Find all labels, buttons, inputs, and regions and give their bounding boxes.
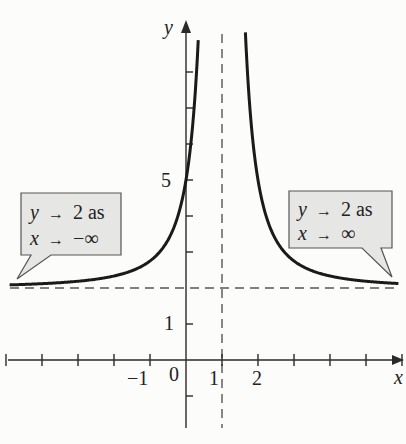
svg-text:y → 2 as: y → 2 as <box>28 201 105 224</box>
y-axis <box>181 20 193 428</box>
callout-right-value: 2 as <box>341 198 373 220</box>
svg-text:x → −∞: x → −∞ <box>29 227 98 249</box>
x-axis <box>6 354 404 366</box>
svg-text:x → ∞: x → ∞ <box>297 222 355 244</box>
callout-left: y → 2 as x → −∞ <box>17 193 121 279</box>
callout-right-y: y <box>296 198 307 221</box>
y-tick-label-1: 1 <box>164 312 174 334</box>
callout-left-limit: −∞ <box>73 227 99 249</box>
x-tick-label-2: 2 <box>252 367 262 389</box>
arrow-right-icon: → <box>48 205 64 222</box>
callout-right: y → 2 as x → ∞ <box>289 191 392 277</box>
callout-left-x: x <box>29 227 39 249</box>
svg-text:y → 2 as: y → 2 as <box>296 198 373 221</box>
y-tick-label-5: 5 <box>161 169 171 191</box>
y-axis-label: y <box>162 16 173 39</box>
arrow-right-icon: → <box>316 202 332 219</box>
y-axis-arrow-icon <box>181 20 191 33</box>
callout-left-y: y <box>28 201 39 224</box>
rational-function-graph: y x −1 0 1 2 1 5 y → 2 as x → −∞ y → 2 a… <box>0 0 406 444</box>
arrow-right-icon: → <box>48 231 64 248</box>
callout-right-x: x <box>297 222 307 244</box>
callout-right-limit: ∞ <box>341 222 355 244</box>
x-axis-label: x <box>393 366 403 388</box>
x-tick-label-0: 0 <box>169 363 179 385</box>
x-tick-label-1: 1 <box>209 367 219 389</box>
x-tick-label-neg1: −1 <box>127 367 148 389</box>
callout-left-value: 2 as <box>73 201 105 223</box>
arrow-right-icon: → <box>316 226 332 243</box>
